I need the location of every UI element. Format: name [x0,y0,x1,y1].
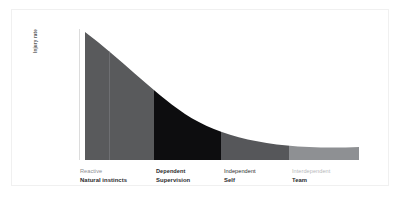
stage-sub-interdependent: Team [292,176,330,185]
stage-label-interdependent: Interdependent Team [292,167,330,185]
stage-labels: Reactive Natural instincts Dependent Sup… [80,167,380,193]
band-dependent [154,28,221,160]
chart-page: Injury rate Reactive [0,0,400,206]
stage-sub-dependent: Supervision [156,176,190,185]
stage-label-dependent: Dependent Supervision [156,167,190,185]
stage-name-interdependent: Interdependent [292,167,330,176]
bradley-curve [80,28,359,160]
band-reactive [80,28,154,160]
stage-name-independent: Independent [224,167,256,176]
stage-label-reactive: Reactive Natural instincts [80,167,127,185]
stage-name-reactive: Reactive [80,167,127,176]
stage-sub-reactive: Natural instincts [80,176,127,185]
stage-name-dependent: Dependent [156,167,190,176]
band-interdependent [289,28,359,160]
y-axis-label: Injury rate [33,6,43,76]
stage-label-independent: Independent Self [224,167,256,185]
band-inner-divider [109,28,110,160]
chart-card: Injury rate Reactive [11,9,389,186]
stage-sub-independent: Self [224,176,256,185]
plot-area [80,28,359,160]
band-independent [221,28,289,160]
